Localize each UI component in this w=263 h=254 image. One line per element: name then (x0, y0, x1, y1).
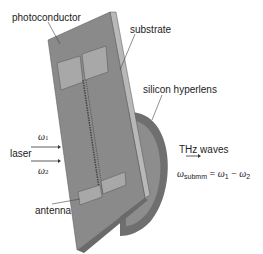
silicon-hyperlens-label: silicon hyperlens (143, 85, 217, 95)
frequency-equation: ωsubmm = ω1 − ω2 (177, 168, 250, 180)
omega1-label: ω1 (38, 132, 49, 142)
substrate-label: substrate (130, 25, 171, 35)
omega2-label: ω2 (38, 166, 49, 176)
thz-waves-label: THz waves (179, 145, 228, 155)
laser-label: laser (10, 149, 32, 159)
antenna-label: antenna (35, 206, 71, 216)
photoconductor-label: photoconductor (12, 13, 81, 23)
